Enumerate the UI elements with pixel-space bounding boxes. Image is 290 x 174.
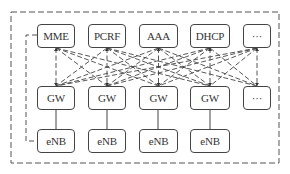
enb-node-enb4: eNB xyxy=(190,129,230,153)
gw-node-gw3: GW xyxy=(139,86,178,110)
enb-node-enb1: eNB xyxy=(37,129,75,153)
core-node-pcrf: PCRF xyxy=(88,24,126,48)
gw-node-gw1: GW xyxy=(37,86,75,110)
core-node-core-more: ··· xyxy=(243,24,271,48)
network-diagram: MMEPCRFAAADHCP···GWGWGWGW···eNBeNBeNBeNB xyxy=(0,0,290,174)
gw-enb-links xyxy=(56,110,210,129)
mme-enb-side-link xyxy=(26,35,37,141)
gw-node-gw2: GW xyxy=(88,86,126,110)
gw-node-gw4: GW xyxy=(190,86,230,110)
core-node-dhcp: DHCP xyxy=(190,24,230,48)
core-node-aaa: AAA xyxy=(139,24,178,48)
enb-node-enb2: eNB xyxy=(88,129,126,153)
gw-node-gw-more: ··· xyxy=(243,86,271,110)
enb-node-enb3: eNB xyxy=(139,129,178,153)
core-node-mme: MME xyxy=(37,24,75,48)
core-gw-mesh xyxy=(56,48,257,86)
